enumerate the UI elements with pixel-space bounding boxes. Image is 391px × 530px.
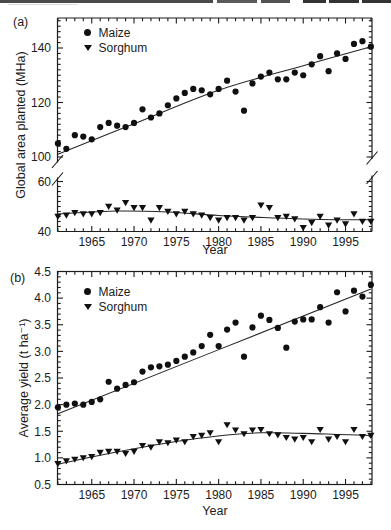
maize-point — [258, 313, 264, 319]
maize-point — [114, 123, 120, 129]
legend-item-maize: Maize — [83, 284, 147, 300]
maize-point — [173, 95, 179, 101]
sorghum-point — [88, 211, 95, 217]
legend-label-maize: Maize — [99, 285, 131, 299]
sorghum-marker-icon — [83, 45, 92, 51]
maize-point — [249, 324, 255, 330]
maize-point — [106, 379, 112, 385]
sorghum-point — [223, 422, 230, 428]
panel-a-x-axis-title: Year — [202, 243, 227, 257]
sorghum-point — [308, 220, 315, 226]
maize-point — [309, 316, 315, 322]
maize-point — [351, 41, 357, 47]
sorghum-point — [266, 205, 273, 211]
maize-point — [199, 87, 205, 93]
maize-point — [182, 354, 188, 360]
maize-point — [89, 136, 95, 142]
svg-text:1995: 1995 — [332, 488, 359, 502]
maize-point — [72, 132, 78, 138]
sorghum-point — [181, 209, 188, 215]
maize-point — [232, 89, 238, 95]
maize-point — [266, 69, 272, 75]
sorghum-point — [181, 439, 188, 445]
legend-panel-b: Maize Sorghum — [83, 284, 147, 315]
sorghum-point — [359, 219, 366, 225]
sorghum-point — [333, 218, 340, 224]
svg-text:2.0: 2.0 — [34, 398, 51, 412]
maize-point — [334, 289, 340, 295]
maize-point — [300, 72, 306, 78]
legend-label-maize: Maize — [99, 26, 131, 40]
sorghum-point — [300, 435, 307, 441]
sorghum-point — [130, 449, 137, 455]
maize-point — [275, 325, 281, 331]
maize-point — [342, 308, 348, 314]
maize-point — [173, 358, 179, 364]
svg-text:1990: 1990 — [290, 488, 317, 502]
maize-point — [63, 402, 69, 408]
sorghum-point — [342, 439, 349, 445]
legend-item-maize: Maize — [83, 25, 147, 41]
svg-text:40: 40 — [38, 225, 52, 239]
sorghum-point — [215, 218, 222, 224]
maize-point — [342, 56, 348, 62]
maize-point — [89, 399, 95, 405]
sorghum-yield-trend-line — [58, 433, 371, 464]
maize-point — [292, 318, 298, 324]
sorghum-point — [232, 215, 239, 221]
svg-text:1975: 1975 — [163, 488, 190, 502]
sorghum-point — [257, 427, 264, 433]
sorghum-point — [266, 431, 273, 437]
legend-item-sorghum: Sorghum — [83, 41, 147, 57]
maize-point — [326, 320, 332, 326]
maize-point — [368, 282, 374, 288]
maize-point — [317, 304, 323, 310]
maize-point — [224, 78, 230, 84]
sorghum-point — [223, 215, 230, 221]
sorghum-yield-points — [54, 422, 374, 467]
maize-point — [359, 293, 365, 299]
maize-point — [351, 288, 357, 294]
sorghum-point — [333, 434, 340, 440]
sorghum-point — [97, 210, 104, 216]
sorghum-point — [342, 221, 349, 227]
maize-point — [148, 364, 154, 370]
maize-point — [122, 124, 128, 130]
maize-point — [55, 404, 61, 410]
svg-text:3.5: 3.5 — [34, 318, 51, 332]
sorghum-point — [215, 439, 222, 445]
maize-point — [63, 146, 69, 152]
sorghum-point — [367, 219, 374, 225]
maize-marker-icon — [83, 288, 92, 295]
maize-point — [216, 343, 222, 349]
svg-text:2.5: 2.5 — [34, 371, 51, 385]
sorghum-point — [130, 205, 137, 211]
maize-point — [55, 140, 61, 146]
maize-point — [139, 106, 145, 112]
maize-point — [165, 362, 171, 368]
maize-point — [97, 396, 103, 402]
maize-point — [216, 86, 222, 92]
sorghum-point — [63, 213, 70, 219]
sorghum-point — [207, 215, 214, 221]
legend-label-sorghum: Sorghum — [99, 41, 148, 55]
maize-point — [131, 120, 137, 126]
maize-point — [292, 69, 298, 75]
svg-text:1985: 1985 — [248, 235, 275, 249]
maize-point — [207, 332, 213, 338]
sorghum-point — [274, 432, 281, 438]
sorghum-point — [240, 218, 247, 224]
svg-text:1975: 1975 — [163, 235, 190, 249]
sorghum-point — [122, 200, 129, 206]
svg-text:1.0: 1.0 — [34, 451, 51, 465]
figure-page: { "page": { "background": "#ffffff", "in… — [0, 0, 391, 530]
svg-text:4.0: 4.0 — [34, 291, 51, 305]
maize-point — [300, 316, 306, 322]
maize-point — [326, 68, 332, 74]
maize-point — [122, 382, 128, 388]
svg-text:60: 60 — [38, 175, 52, 189]
sorghum-point — [257, 203, 264, 209]
svg-text:1970: 1970 — [121, 488, 148, 502]
maize-point — [249, 80, 255, 86]
svg-text:120: 120 — [31, 96, 51, 110]
